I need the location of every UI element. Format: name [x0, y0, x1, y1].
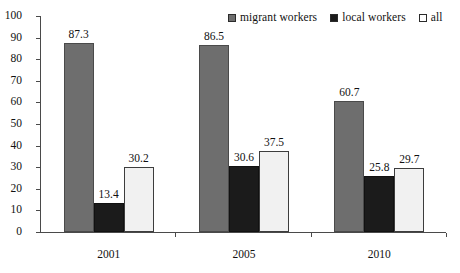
bar [94, 203, 124, 232]
bar-value-label: 60.7 [327, 86, 371, 98]
y-axis-tick-label: 20 [0, 183, 22, 195]
bar [124, 167, 154, 232]
bar [364, 176, 394, 232]
y-axis-line [40, 16, 41, 232]
bar-value-label: 30.2 [117, 152, 161, 164]
bar [229, 166, 259, 232]
x-axis-category-label: 2010 [339, 248, 419, 261]
y-axis-tick [36, 232, 40, 233]
bar [199, 45, 229, 232]
y-axis-tick-label: 30 [0, 161, 22, 173]
y-axis-tick-label: 50 [0, 118, 22, 130]
y-axis-tick-label: 40 [0, 140, 22, 152]
x-axis-category-label: 2005 [204, 248, 284, 261]
y-axis-tick [36, 210, 40, 211]
y-axis-tick-label: 0 [0, 226, 22, 238]
x-axis-tick [446, 233, 447, 237]
y-axis-tick-label: 100 [0, 10, 22, 22]
x-axis-tick [311, 233, 312, 237]
y-axis-tick-label: 60 [0, 96, 22, 108]
y-axis-tick-label: 10 [0, 204, 22, 216]
bar [394, 168, 424, 232]
y-axis-tick [36, 124, 40, 125]
y-axis-tick [36, 167, 40, 168]
y-axis-tick [36, 146, 40, 147]
bar-value-label: 86.5 [192, 30, 236, 42]
y-axis-tick [36, 189, 40, 190]
y-axis-tick [36, 59, 40, 60]
y-axis-tick-label: 70 [0, 75, 22, 87]
x-axis-category-label: 2001 [69, 248, 149, 261]
bar-value-label: 29.7 [387, 153, 431, 165]
plot-area: 0102030405060708090100 87.313.430.286.53… [40, 16, 446, 232]
y-axis-tick-label: 80 [0, 53, 22, 65]
bar-value-label: 87.3 [57, 28, 101, 40]
x-axis-line [40, 232, 446, 233]
x-axis-tick [175, 233, 176, 237]
bar-chart: migrant workers local workers all 010203… [0, 0, 460, 273]
bar-value-label: 37.5 [252, 136, 296, 148]
bar [259, 151, 289, 232]
y-axis-tick [36, 81, 40, 82]
y-axis-tick-label: 90 [0, 32, 22, 44]
bar [64, 43, 94, 232]
y-axis-tick [36, 38, 40, 39]
y-axis-tick [36, 102, 40, 103]
y-axis-tick [36, 16, 40, 17]
